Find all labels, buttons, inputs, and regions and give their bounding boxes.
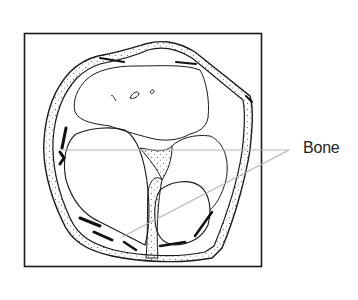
label-bone: Bone [303, 139, 340, 157]
